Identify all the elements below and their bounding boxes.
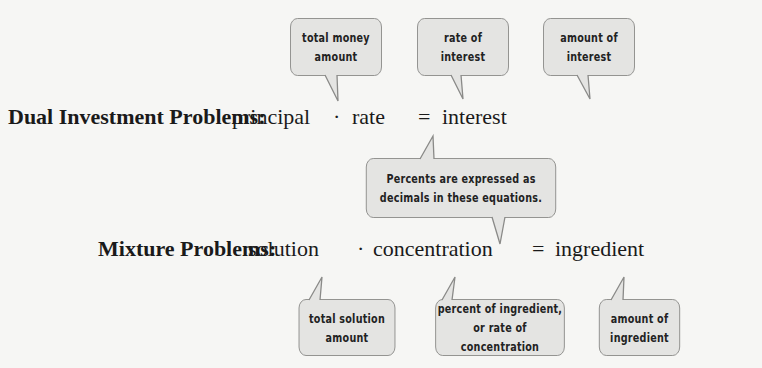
callout-principal: total money amount <box>290 18 382 76</box>
term-rate: rate <box>352 106 385 128</box>
term-solution: solution <box>248 238 319 260</box>
term-concentration: concentration <box>373 238 493 260</box>
multiply-dot: · <box>357 238 364 260</box>
term-principal: principal <box>232 106 310 128</box>
callout-concentration: percent of ingredient, or rate of concen… <box>435 299 565 356</box>
callout-rate-text: rate of interest <box>441 28 486 66</box>
callout-solution: total solution amount <box>299 299 396 356</box>
callout-ingredient-text: amount of ingredient <box>610 309 669 347</box>
investment-label: Dual Investment Problems: <box>8 106 265 128</box>
callout-percent-note-text: Percents are expressed as decimals in th… <box>380 169 542 207</box>
term-interest: interest <box>442 106 507 128</box>
equals-sign: = <box>532 238 544 260</box>
callout-rate: rate of interest <box>417 18 509 76</box>
callout-principal-text: total money amount <box>302 28 370 66</box>
callout-ingredient: amount of ingredient <box>599 299 680 356</box>
multiply-dot: · <box>333 106 340 128</box>
callout-interest-text: amount of interest <box>560 28 618 66</box>
term-ingredient: ingredient <box>555 238 644 260</box>
callout-solution-text: total solution amount <box>309 309 385 347</box>
callout-percent-note: Percents are expressed as decimals in th… <box>366 158 556 218</box>
callout-concentration-text: percent of ingredient, or rate of concen… <box>436 299 564 356</box>
equals-sign: = <box>418 106 430 128</box>
callout-interest: amount of interest <box>543 18 635 76</box>
